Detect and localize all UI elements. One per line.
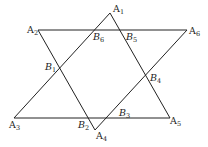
label-a6: A6 [188, 25, 200, 38]
label-b6: B6 [92, 31, 104, 44]
triangle-segments [14, 13, 187, 130]
geometry-figure: A1A2A3A4A5A6B1B2B3B4B5B6 [0, 0, 208, 147]
label-b2: B2 [77, 119, 89, 132]
label-a2: A2 [26, 24, 38, 37]
point-labels: A1A2A3A4A5A6B1B2B3B4B5B6 [8, 3, 200, 143]
segment-a1-a5 [110, 13, 170, 118]
label-b4: B4 [149, 72, 161, 85]
label-a4: A4 [95, 130, 107, 143]
label-a5: A5 [169, 115, 181, 128]
label-b1: B1 [44, 61, 56, 74]
label-a1: A1 [112, 3, 124, 16]
label-a3: A3 [8, 119, 20, 132]
segment-a2-a4 [38, 30, 95, 130]
